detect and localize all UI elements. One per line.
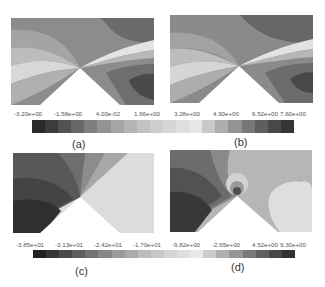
colorbar-segment xyxy=(281,120,294,133)
colorbar-segment xyxy=(112,250,125,258)
colorbar-segment xyxy=(97,120,110,133)
contour-panel-d xyxy=(170,150,312,232)
tick-label: -1.70e+01 xyxy=(133,241,161,248)
tick-label: 4.52e+00 xyxy=(252,241,278,248)
colorbar-segment xyxy=(243,250,256,258)
tick-label: -3.13e+01 xyxy=(55,241,83,248)
colorbar-segment xyxy=(242,120,255,133)
colorbar-bottom xyxy=(33,250,295,258)
colorbar-segment xyxy=(32,120,45,133)
colorbar-segment xyxy=(151,250,164,258)
tick-label: 6.52e+00 xyxy=(252,110,278,117)
colorbar-segment xyxy=(216,250,229,258)
colorbar-segment xyxy=(164,250,177,258)
colorbar-segment xyxy=(190,250,203,258)
colorbar-segment xyxy=(215,120,228,133)
colorbar-segment xyxy=(228,120,241,133)
colorbar-segment xyxy=(176,120,189,133)
colorbar-segment xyxy=(269,250,282,258)
tick-label: -2.42e+01 xyxy=(94,241,122,248)
panel-label-b: (b) xyxy=(234,136,247,148)
colorbar-segment xyxy=(125,250,138,258)
contour-plot-c xyxy=(13,153,154,233)
colorbar-top-ticks: -3.20e+00 -1.58e+00 4.00e-02 1.66e+00 3.… xyxy=(0,110,325,118)
colorbar-segment xyxy=(46,250,59,258)
colorbar-segment xyxy=(203,250,216,258)
colorbar-segment xyxy=(229,250,242,258)
colorbar-segment xyxy=(85,250,98,258)
colorbar-segment xyxy=(98,250,111,258)
contour-panel-b xyxy=(170,15,313,103)
panel-label-d: (d) xyxy=(231,261,244,273)
tick-label: 7.60e+00 xyxy=(280,110,306,117)
colorbar-segment xyxy=(150,120,163,133)
colorbar-segment xyxy=(163,120,176,133)
contour-panel-c xyxy=(13,153,154,233)
tick-label: 3.28e+00 xyxy=(174,110,200,117)
colorbar-top xyxy=(32,120,294,133)
colorbar-segment xyxy=(45,120,58,133)
tick-label: -9.82e+00 xyxy=(172,241,200,248)
colorbar-segment xyxy=(33,250,46,258)
colorbar-segment xyxy=(111,120,124,133)
contour-plot-b xyxy=(170,15,313,103)
contour-plot-d xyxy=(170,150,312,232)
colorbar-segment xyxy=(138,250,151,258)
colorbar-segment xyxy=(255,120,268,133)
tick-label: 4.00e-02 xyxy=(96,110,120,117)
contour-plot-a xyxy=(11,18,154,105)
colorbar-segment xyxy=(202,120,215,133)
contour-panel-a xyxy=(11,18,154,105)
colorbar-segment xyxy=(124,120,137,133)
colorbar-segment xyxy=(256,250,269,258)
tick-label: -3.20e+00 xyxy=(14,110,42,117)
colorbar-segment xyxy=(72,250,85,258)
panel-label-c: (c) xyxy=(75,265,88,277)
colorbar-segment xyxy=(137,120,150,133)
colorbar-segment xyxy=(59,250,72,258)
colorbar-segment xyxy=(189,120,202,133)
panel-label-a: (a) xyxy=(72,138,85,150)
tick-label: -2.65e+00 xyxy=(212,241,240,248)
tick-label: -3.85e+01 xyxy=(16,241,44,248)
colorbar-segment xyxy=(177,250,190,258)
colorbar-segment xyxy=(71,120,84,133)
colorbar-bottom-ticks: -3.85e+01 -3.13e+01 -2.42e+01 -1.70e+01 … xyxy=(0,241,325,249)
colorbar-segment xyxy=(58,120,71,133)
colorbar-segment xyxy=(282,250,295,258)
colorbar-segment xyxy=(84,120,97,133)
colorbar-segment xyxy=(268,120,281,133)
tick-label: 1.66e+00 xyxy=(134,110,160,117)
tick-label: -1.58e+00 xyxy=(54,110,82,117)
tick-label: 4.90e+00 xyxy=(213,110,239,117)
tick-label: 9.30e+00 xyxy=(280,241,306,248)
